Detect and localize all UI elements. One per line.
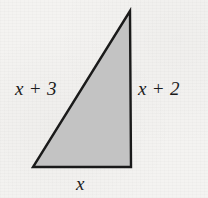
right-leg-label: x + 2 [138, 79, 180, 98]
hypotenuse-label: x + 3 [15, 79, 57, 98]
triangle-shape [0, 0, 208, 198]
triangle-figure: x + 3 x + 2 x [0, 0, 208, 198]
bottom-leg-label: x [76, 174, 85, 193]
